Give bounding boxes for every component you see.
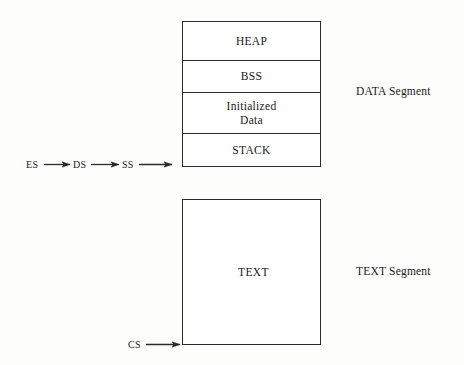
register-label-cs: CS	[128, 339, 141, 350]
data-segment-row-heap: HEAP	[182, 21, 321, 60]
memory-segment-diagram: HEAP BSS Initialized Data STACK TEXT DAT…	[0, 0, 464, 365]
data-segment-row-stack: STACK	[182, 133, 321, 167]
register-label-ss: SS	[122, 159, 134, 170]
text-segment-box-label: TEXT	[238, 266, 269, 278]
register-label-es: ES	[26, 159, 38, 170]
text-segment-side-label: TEXT Segment	[356, 265, 431, 277]
data-segment-side-label: DATA Segment	[356, 85, 431, 97]
data-segment-row-heap-label: HEAP	[236, 34, 267, 48]
register-label-ds: DS	[73, 159, 86, 170]
data-segment-row-bss: BSS	[182, 60, 321, 92]
data-segment-row-stack-label: STACK	[232, 143, 270, 157]
data-segment-row-initialized-data-label-line2: Data	[240, 113, 263, 127]
data-segment-row-initialized-data-label-line1: Initialized	[227, 99, 277, 113]
data-segment-row-bss-label: BSS	[241, 69, 262, 83]
data-segment-row-initialized-data: Initialized Data	[182, 92, 321, 133]
